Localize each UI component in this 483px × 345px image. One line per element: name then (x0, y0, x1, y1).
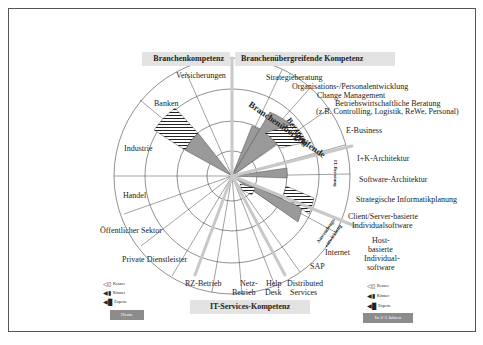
label-industrie: Industrie (124, 144, 152, 153)
label-help-2: Desk (265, 288, 281, 297)
label-versicherungen: Versicherungen (176, 71, 226, 80)
label-rz-betrieb: RZ-Betrieb (185, 279, 221, 288)
megaphone-large-icon: ◀█ (103, 298, 112, 305)
label-client-server-2: Individualsoftware (352, 221, 412, 230)
megaphone-medium-icon: ◀▮ (367, 292, 375, 299)
inner-label-it-beratung: IT-Beratung (331, 160, 340, 187)
label-organisation: Organisations-/Personalentwicklung (292, 82, 408, 91)
megaphone-small-icon: ◁▯ (367, 282, 375, 289)
header-branchenkompetenz: Branchenkompetenz (142, 52, 230, 66)
label-private-dienstleister: Private Dienstleister (122, 255, 187, 264)
label-ebusiness: E-Business (346, 126, 382, 135)
legend-right-koenner: ◀▮ Könner (367, 292, 389, 299)
label-strategieberatung: Strategieberatung (266, 73, 322, 82)
legend-right-experte: ◀█ Experte (367, 302, 391, 309)
label-netz: Netz- (240, 279, 258, 288)
heute-button[interactable]: Heute (110, 310, 144, 320)
header-branchenuebergreifend: Branchenübergreifende Kompetenz (235, 52, 395, 66)
label-distributed: Distributed (287, 279, 323, 288)
label-ik-architektur: I+K-Architektur (357, 154, 410, 163)
label-help: Help (266, 279, 282, 288)
label-handel: Handel (123, 191, 146, 200)
in-2-3-jahren-button[interactable]: In 2-3 Jahren (363, 313, 413, 323)
label-client-server: Client/Server-basierte (348, 212, 418, 221)
legend-left-experte: ◀█ Experte (103, 298, 127, 305)
legend-right-kenner: ◁▯ Kenner (367, 282, 389, 289)
label-host-3: Individual- (364, 254, 400, 263)
megaphone-small-icon: ◁▯ (103, 280, 111, 287)
label-host-2: basierte (368, 245, 393, 254)
label-oeffentlicher-sektor: Öffentlicher Sektor (100, 226, 162, 235)
label-distributed-2: Services (290, 288, 317, 297)
label-bwl-sub: (z.B. Controlling, Logistik, ReWe, Perso… (316, 107, 459, 116)
header-it-services: IT-Services-Kompetenz (190, 300, 310, 314)
label-banken: Banken (154, 99, 178, 108)
megaphone-large-icon: ◀█ (367, 302, 376, 309)
label-software-architektur: Software-Architektur (359, 175, 427, 184)
label-netz-2: Betrieb (232, 288, 256, 297)
megaphone-medium-icon: ◀▮ (103, 289, 111, 296)
label-strategische-informatikplanung: Strategische Informatikplanung (356, 195, 457, 204)
legend-left-kenner: ◁▯ Kenner (103, 280, 125, 287)
legend-left-koenner: ◀▮ Könner (103, 289, 125, 296)
label-host-1: Host- (372, 236, 390, 245)
label-sap: SAP (310, 262, 325, 271)
label-host-4: software (367, 263, 395, 272)
